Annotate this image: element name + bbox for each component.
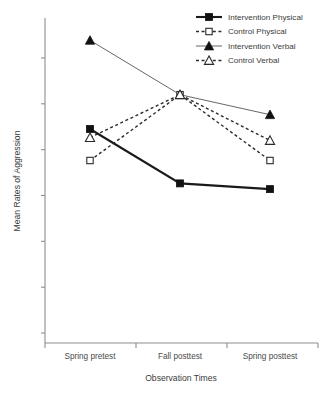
x-axis-category-label: Spring pretest [65,352,117,361]
data-point-open-triangle [204,56,213,65]
legend-item-label: Control Physical [228,27,287,36]
data-point-filled-triangle [85,36,94,45]
data-point-open-square [87,157,93,163]
series-line [90,40,270,114]
x-axis-ticks [45,343,318,348]
series-line [90,95,270,161]
data-point-open-triangle [85,133,94,142]
data-point-filled-square [267,186,274,193]
x-axis-category-label: Spring posttest [243,352,298,361]
legend-item-label: Control Verbal [228,56,279,65]
x-axis-category-label: Fall posttest [158,352,203,361]
data-point-open-square [267,157,273,163]
x-axis [45,343,318,348]
x-axis-title: Observation Times [145,373,217,383]
data-point-open-square [206,28,212,34]
legend-item-label: Intervention Verbal [228,42,296,51]
y-axis-ticks [41,58,45,333]
x-axis-category-labels: Spring pretestFall posttestSpring postte… [65,352,299,361]
data-point-filled-square [177,180,184,187]
chart-canvas: Spring pretestFall posttestSpring postte… [0,0,325,395]
aggression-line-chart: Spring pretestFall posttestSpring postte… [0,0,325,395]
chart-legend: Intervention PhysicalControl PhysicalInt… [196,13,303,66]
y-axis [41,18,45,343]
series-line [90,95,270,141]
data-point-filled-square [87,126,94,133]
legend-item-label: Intervention Physical [228,13,303,22]
data-point-open-triangle [265,136,274,145]
data-point-filled-square [206,14,213,21]
y-axis-title: Mean Rates of Aggression [12,130,22,231]
